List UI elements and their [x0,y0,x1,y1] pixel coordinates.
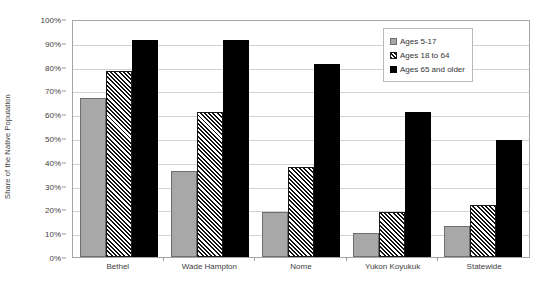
y-axis-tick-label: 100% [41,16,61,25]
legend-swatch-icon [390,66,397,73]
y-axis-tick-label: 70% [45,87,61,96]
bar-group [73,21,164,257]
bar-group [164,21,255,257]
legend-label: Ages 5-17 [400,37,436,46]
bar [262,212,288,257]
y-axis-tick-mark [62,67,66,68]
bar [197,112,223,257]
x-axis-tick-label: Bethel [72,262,164,271]
x-axis-tick-label: Statewide [438,262,530,271]
bar [470,205,496,257]
bar [314,64,340,257]
y-axis-tick-mark [62,234,66,235]
x-axis-tick-mark [163,257,164,261]
y-axis-tick-label: 40% [45,158,61,167]
y-axis-tick-label: 20% [45,206,61,215]
legend-swatch-icon [390,38,397,45]
bar [106,71,132,257]
y-axis-tick-label: 90% [45,39,61,48]
y-axis-tick-label: 60% [45,111,61,120]
legend-swatch-icon [390,52,397,59]
x-axis-tick-label: Nome [255,262,347,271]
y-axis-tick-mark [62,162,66,163]
bar [405,112,431,257]
x-axis-tick-label: Yukon Koyukuk [347,262,439,271]
x-axis-tick-mark [437,257,438,261]
bar-chart: Share of the Native Population 100%90%80… [0,0,552,293]
bar [353,233,379,257]
x-axis-tick-labels: BethelWade HamptonNomeYukon KoyukukState… [72,262,530,271]
x-axis-tick-mark [346,257,347,261]
y-axis-tick-mark [62,91,66,92]
y-axis-tick-labels: 100%90%80%70%60%50%40%30%20%10%0% [22,20,66,258]
legend-label: Ages 18 to 64 [400,51,449,60]
bar [132,40,158,257]
bar [444,226,470,257]
x-axis-tick-mark [254,257,255,261]
bar [223,40,249,257]
chart-legend: Ages 5-17Ages 18 to 64Ages 65 and older [383,28,473,82]
bar [379,212,405,257]
x-axis-tick-label: Wade Hampton [164,262,256,271]
y-axis-tick-mark [62,139,66,140]
y-axis-title: Share of the Native Population [0,0,14,293]
bar [288,167,314,257]
y-axis-tick-label: 30% [45,182,61,191]
legend-label: Ages 65 and older [400,65,465,74]
y-axis-tick-mark [62,43,66,44]
y-axis-tick-mark [62,20,66,21]
legend-item: Ages 5-17 [390,34,465,48]
y-axis-tick-mark [62,186,66,187]
y-axis-tick-mark [62,210,66,211]
y-axis-tick-label: 50% [45,135,61,144]
legend-item: Ages 65 and older [390,62,465,76]
legend-item: Ages 18 to 64 [390,48,465,62]
y-axis-tick-label: 10% [45,230,61,239]
bar [496,140,522,257]
bar [171,171,197,257]
y-axis-tick-label: 0% [49,254,61,263]
y-axis-tick-mark [62,115,66,116]
bar-group [255,21,346,257]
y-axis-tick-mark [62,258,66,259]
bar [80,98,106,257]
y-axis-tick-label: 80% [45,63,61,72]
